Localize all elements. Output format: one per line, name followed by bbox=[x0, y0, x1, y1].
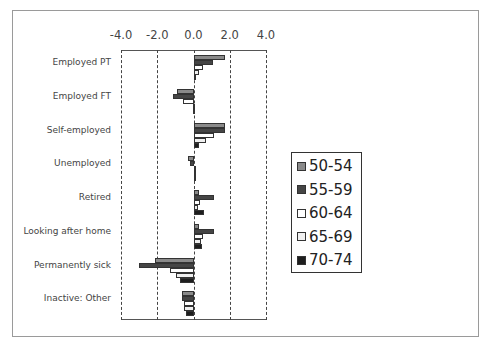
legend-swatch-icon bbox=[297, 162, 306, 171]
category-label: Retired bbox=[79, 192, 111, 202]
bar-70-74 bbox=[194, 244, 202, 249]
bar-70-74 bbox=[186, 311, 193, 316]
gridline bbox=[157, 50, 158, 320]
legend-swatch-icon bbox=[297, 232, 306, 241]
category-label: Employed PT bbox=[52, 57, 111, 67]
gridline bbox=[194, 50, 195, 320]
bar-70-74 bbox=[194, 75, 196, 80]
legend-swatch-icon bbox=[297, 185, 306, 194]
legend-label: 50-54 bbox=[309, 157, 353, 175]
bar-70-74 bbox=[180, 278, 194, 283]
x-tick-label: -2.0 bbox=[146, 28, 168, 42]
category-label: Unemployed bbox=[54, 158, 111, 168]
category-label: Inactive: Other bbox=[44, 293, 111, 303]
legend: 50-5455-5960-6465-6970-74 bbox=[291, 152, 362, 273]
x-tick-label: 2.0 bbox=[221, 28, 239, 42]
gridline bbox=[230, 50, 231, 320]
legend-item: 50-54 bbox=[297, 156, 353, 176]
gridline bbox=[266, 50, 267, 320]
legend-swatch-icon bbox=[297, 256, 306, 265]
bar-70-74 bbox=[193, 109, 195, 114]
bar-70-74 bbox=[194, 143, 199, 148]
legend-item: 65-69 bbox=[297, 227, 353, 247]
category-label: Permanently sick bbox=[34, 260, 111, 270]
legend-item: 70-74 bbox=[297, 250, 353, 270]
legend-label: 60-64 bbox=[309, 204, 353, 222]
category-label: Self-employed bbox=[47, 125, 111, 135]
gridline bbox=[121, 50, 122, 320]
x-tick-label: 0.0 bbox=[184, 28, 202, 42]
legend-label: 70-74 bbox=[309, 251, 353, 269]
legend-swatch-icon bbox=[297, 209, 306, 218]
legend-label: 65-69 bbox=[309, 228, 353, 246]
legend-item: 55-59 bbox=[297, 180, 353, 200]
legend-item: 60-64 bbox=[297, 203, 353, 223]
x-tick-label: 4.0 bbox=[257, 28, 275, 42]
bar-70-74 bbox=[194, 210, 205, 215]
legend-label: 55-59 bbox=[309, 181, 353, 199]
bar-70-74 bbox=[194, 176, 196, 181]
category-label: Employed FT bbox=[53, 91, 111, 101]
category-label: Looking after home bbox=[23, 226, 111, 236]
x-tick-label: -4.0 bbox=[110, 28, 132, 42]
